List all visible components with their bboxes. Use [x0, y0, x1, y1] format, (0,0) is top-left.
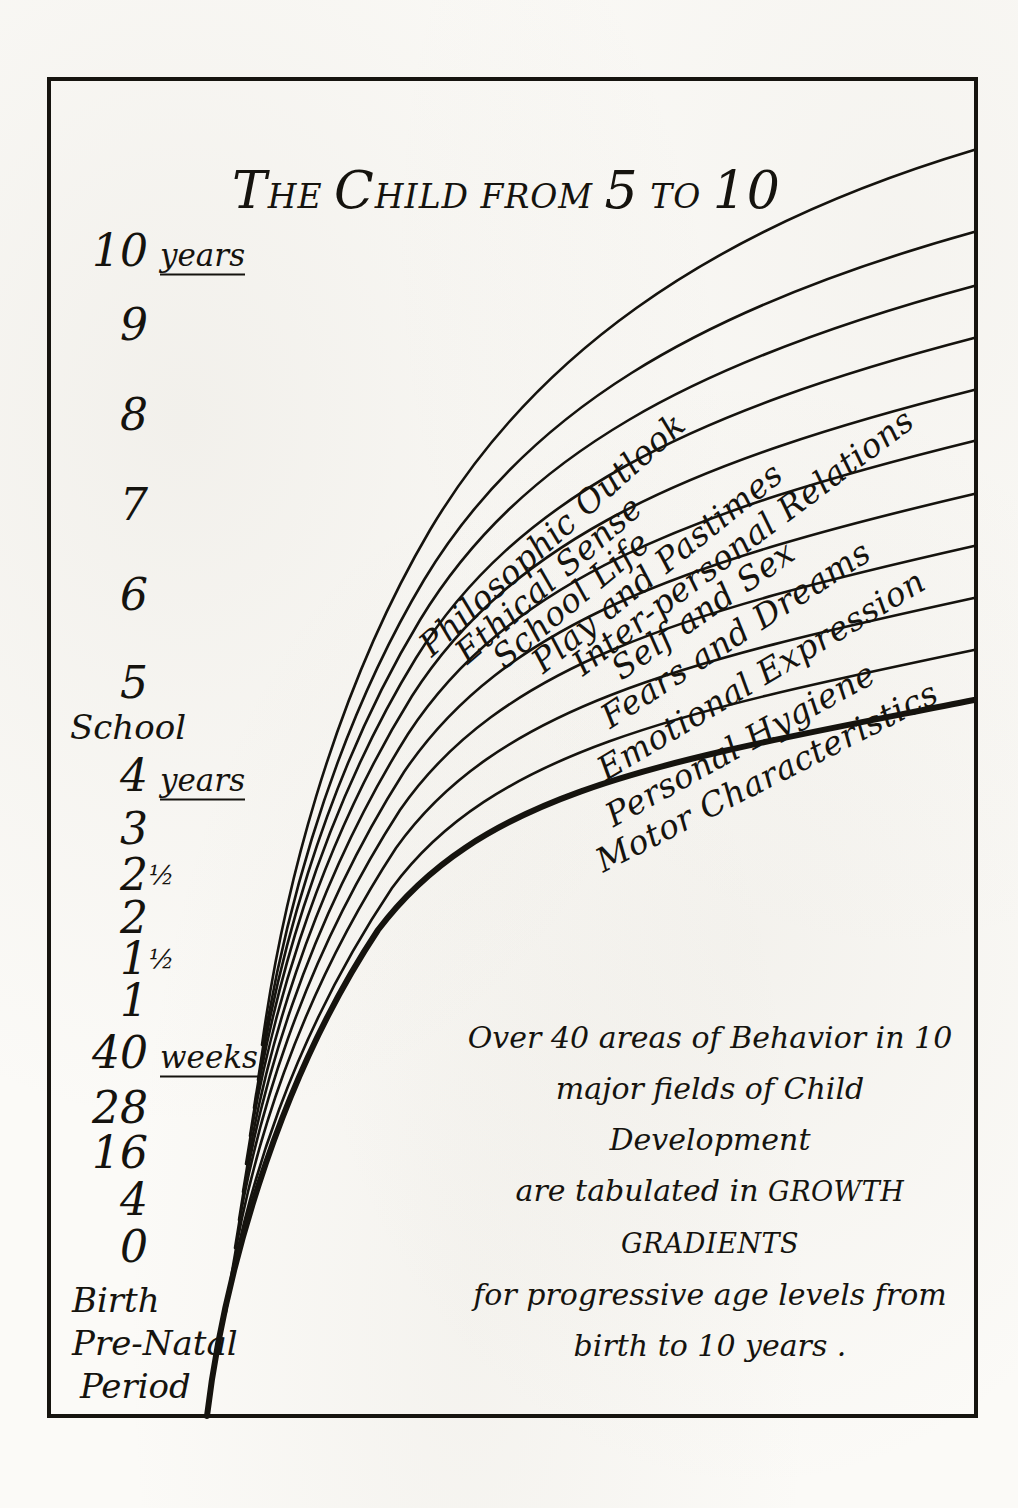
y-axis-tick-6: 6 [70, 569, 148, 620]
caption-line-4: for progressive age levels from [455, 1269, 965, 1320]
chart-page: THE CHILD FROM 5 TO 10 10years987654year… [0, 0, 1018, 1508]
y-axis-tick-number: 3 [70, 803, 148, 854]
title-t: T [232, 160, 268, 220]
y-axis-tick-number: 40 [70, 1027, 148, 1078]
y-axis-tick-40: 40weeks [70, 1027, 258, 1078]
y-axis-tick-10: 10years [70, 225, 245, 276]
y-axis-tick-number: 0 [70, 1221, 148, 1272]
title-hild: HILD [375, 177, 481, 216]
y-axis-tick-number: 8 [70, 389, 148, 440]
y-axis-label-period: Period [80, 1366, 191, 1406]
title-he: HE [268, 177, 334, 216]
y-axis-label-pre-natal: Pre-Natal [72, 1323, 238, 1363]
y-axis-tick-3: 3 [70, 803, 148, 854]
y-axis-tick-number: 16 [70, 1127, 148, 1178]
title-from: FROM [481, 177, 605, 216]
chart-caption: Over 40 areas of Behavior in 10 major fi… [455, 1012, 965, 1371]
title-ten: 10 [713, 160, 781, 220]
y-axis-tick-4: 4years [70, 750, 245, 801]
y-axis-tick-8: 8 [70, 389, 148, 440]
y-axis-tick-0: 0 [70, 1221, 148, 1272]
y-axis-label-birth: Birth [72, 1280, 160, 1320]
y-axis-tick-fraction: ½ [149, 859, 174, 889]
caption-line-1: Over 40 areas of Behavior in 10 [455, 1012, 965, 1063]
y-axis-tick-28: 28 [70, 1082, 148, 1133]
y-axis-tick-1: 1 [70, 975, 148, 1026]
y-axis-tick-number: 28 [70, 1082, 148, 1133]
y-axis-tick-number: 1 [70, 975, 148, 1026]
y-axis-tick-7: 7 [70, 479, 148, 530]
y-axis-tick-number: 6 [70, 569, 148, 620]
y-axis-tick-unit: years [160, 237, 245, 276]
y-axis-tick-number: 10 [70, 225, 148, 276]
y-axis-tick-number: 9 [70, 299, 148, 350]
y-axis-tick-number: 5 [70, 657, 148, 708]
y-axis-tick-fraction: ½ [149, 943, 174, 973]
y-axis-tick-9: 9 [70, 299, 148, 350]
y-axis-tick-unit: years [160, 762, 245, 801]
title-five: 5 [605, 160, 639, 220]
caption-line-3: are tabulated in GROWTH GRADIENTS [455, 1165, 965, 1269]
title-c: C [334, 160, 375, 220]
caption-line-5: birth to 10 years . [455, 1320, 965, 1371]
y-axis-tick-number: 4 [70, 1174, 148, 1225]
y-axis-tick-number: 4 [70, 750, 148, 801]
page-title: THE CHILD FROM 5 TO 10 [232, 160, 781, 220]
title-to: TO [639, 177, 713, 216]
caption-line-2: major fields of Child Development [455, 1063, 965, 1165]
y-axis-tick-16: 16 [70, 1127, 148, 1178]
y-axis-tick-number: 7 [70, 479, 148, 530]
y-axis-label-school: School [70, 707, 186, 747]
y-axis-tick-unit: weeks [160, 1039, 258, 1078]
caption-line-3-text: are tabulated in [516, 1173, 768, 1208]
y-axis-tick-4: 4 [70, 1174, 148, 1225]
y-axis-tick-5: 5 [70, 657, 148, 708]
